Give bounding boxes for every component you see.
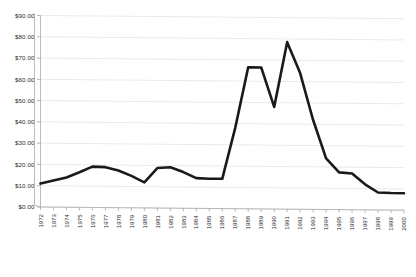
y-axis-tick-label: $70.00 <box>15 54 35 61</box>
x-axis-tick-label: 1989 <box>258 215 264 229</box>
x-axis-tick-label: 1977 <box>103 214 109 228</box>
chart-background <box>0 0 416 277</box>
x-axis-tick-label: 1993 <box>310 216 316 230</box>
y-axis-tick-label: $50.00 <box>15 97 35 104</box>
x-axis-tick-label: 1976 <box>90 214 96 228</box>
x-axis-tick-label: 1998 <box>375 216 381 230</box>
y-axis-tick-label: $40.00 <box>15 118 35 125</box>
x-axis-tick-label: 1986 <box>219 215 225 229</box>
x-axis-tick-label: 1991 <box>284 216 290 230</box>
x-axis-tick-label: 1994 <box>323 216 329 230</box>
x-axis-tick-label: 1981 <box>155 214 161 228</box>
x-axis-tick-label: 1975 <box>77 214 83 228</box>
x-axis-tick-label: 1972 <box>38 213 44 227</box>
x-axis-tick-label: 1973 <box>51 214 57 228</box>
x-axis-tick-label: 1988 <box>245 215 251 229</box>
x-axis-tick-label: 1990 <box>271 215 277 229</box>
y-axis-tick-label: $10.00 <box>15 182 35 189</box>
x-axis-tick-label: 1974 <box>64 214 70 228</box>
y-axis-tick-label: $0.00 <box>19 203 35 210</box>
y-axis-tick-label: $90.00 <box>15 12 35 19</box>
x-axis-tick-label: 1987 <box>232 215 238 229</box>
x-axis-tick-label: 1995 <box>336 216 342 230</box>
x-axis-tick-label: 1999 <box>388 216 394 230</box>
x-axis-tick-label: 2000 <box>401 217 407 231</box>
x-axis-tick-label: 1984 <box>193 215 199 229</box>
y-axis-tick-label: $20.00 <box>15 161 35 168</box>
x-axis-tick-label: 1983 <box>181 215 187 229</box>
x-axis-tick-label: 1996 <box>349 216 355 230</box>
x-axis-tick-label: 1997 <box>362 216 368 230</box>
y-axis-tick-label: $30.00 <box>15 139 35 146</box>
x-axis-tick-label: 1992 <box>297 216 303 230</box>
x-axis-tick-label: 1978 <box>116 214 122 228</box>
y-axis-tick-label: $80.00 <box>15 33 35 40</box>
line-chart: $0.00$10.00$20.00$30.00$40.00$50.00$60.0… <box>0 0 416 277</box>
chart-svg: $0.00$10.00$20.00$30.00$40.00$50.00$60.0… <box>0 0 416 277</box>
y-axis-tick-label: $60.00 <box>15 76 35 83</box>
x-axis-tick-label: 1982 <box>168 215 174 229</box>
x-axis-tick-label: 1985 <box>206 215 212 229</box>
x-axis-tick-label: 1980 <box>142 214 148 228</box>
x-axis-tick-label: 1979 <box>129 214 135 228</box>
